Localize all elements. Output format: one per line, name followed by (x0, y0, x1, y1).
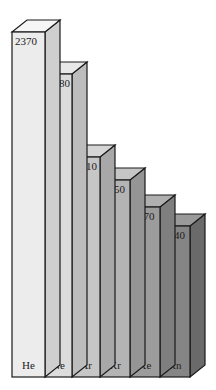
bar-side-face (100, 145, 115, 377)
bar-side-face (160, 195, 175, 377)
bar-side-face (130, 168, 145, 377)
bar-side-face (190, 214, 205, 377)
bar-side-face (72, 62, 87, 377)
bar-he (12, 32, 45, 377)
category-label: He (22, 359, 35, 371)
bar-value-label: 2370 (15, 35, 38, 47)
bar-side-face (45, 20, 60, 377)
bar-chart: 1040Rn1170Xe1350Kr1510Ar2080Ne2370He (0, 0, 216, 390)
